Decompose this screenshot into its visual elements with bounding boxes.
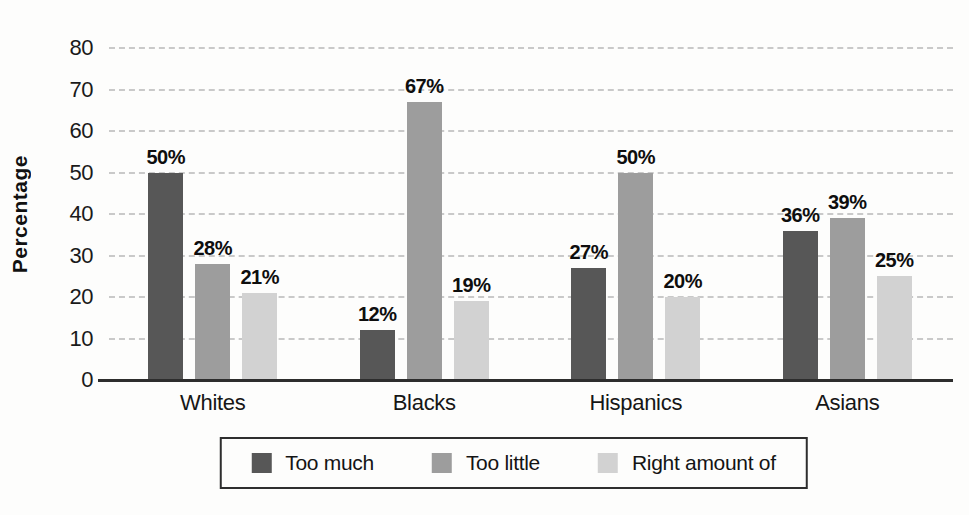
bar-value-label: 36%	[781, 204, 820, 227]
bar-value-label: 27%	[569, 241, 608, 264]
bar-value-label: 50%	[146, 146, 185, 169]
legend-label-too-much: Too much	[285, 451, 374, 475]
x-axis-label-hispanics: Hispanics	[530, 390, 742, 416]
y-axis-title: Percentage	[8, 155, 32, 273]
bar-too-little-asians: 39%	[830, 218, 865, 380]
y-axis-tick-30: 30	[43, 245, 93, 267]
bar-value-label: 21%	[240, 266, 279, 289]
y-axis-tick-40: 40	[43, 203, 93, 225]
bar-value-label: 19%	[452, 274, 491, 297]
bar-group-asians: 36%39%25%	[742, 48, 954, 380]
y-axis-title-wrap: Percentage	[2, 48, 38, 380]
legend-label-too-little: Too little	[466, 451, 540, 475]
bar-group-hispanics: 27%50%20%	[530, 48, 742, 380]
x-axis-labels: WhitesBlacksHispanicsAsians	[107, 390, 953, 416]
bar-value-label: 39%	[828, 191, 867, 214]
bar-group-blacks: 12%67%19%	[319, 48, 531, 380]
bar-value-label: 67%	[405, 75, 444, 98]
bar-groups: 50%28%21%12%67%19%27%50%20%36%39%25%	[107, 48, 953, 380]
y-axis-tick-0: 0	[43, 369, 93, 391]
bar-value-label: 50%	[616, 146, 655, 169]
bar-too-much-whites: 50%	[148, 173, 183, 381]
bar-value-label: 20%	[663, 270, 702, 293]
bar-too-little-whites: 28%	[195, 264, 230, 380]
y-axis-tick-70: 70	[43, 79, 93, 101]
bar-group-whites: 50%28%21%	[107, 48, 319, 380]
legend-swatch-too-much	[251, 453, 271, 473]
bar-too-much-hispanics: 27%	[571, 268, 606, 380]
legend-item-too-much: Too much	[251, 451, 374, 475]
bar-right-amount-of-whites: 21%	[242, 293, 277, 380]
y-axis-tick-20: 20	[43, 286, 93, 308]
legend: Too muchToo littleRight amount of	[219, 437, 807, 489]
bar-too-little-hispanics: 50%	[618, 173, 653, 381]
x-axis-label-blacks: Blacks	[319, 390, 531, 416]
legend-label-right-amount-of: Right amount of	[632, 451, 776, 475]
y-axis-tick-50: 50	[43, 162, 93, 184]
bar-right-amount-of-asians: 25%	[877, 276, 912, 380]
bar-value-label: 28%	[193, 237, 232, 260]
y-axis-tick-10: 10	[43, 328, 93, 350]
x-axis-label-asians: Asians	[742, 390, 954, 416]
y-axis-tick-80: 80	[43, 37, 93, 59]
legend-item-right-amount-of: Right amount of	[598, 451, 776, 475]
legend-swatch-too-little	[432, 453, 452, 473]
plot-area: 01020304050607080 50%28%21%12%67%19%27%5…	[107, 48, 953, 380]
y-axis-tick-60: 60	[43, 120, 93, 142]
bar-too-little-blacks: 67%	[407, 102, 442, 380]
bar-value-label: 25%	[875, 249, 914, 272]
x-axis-line	[98, 379, 953, 382]
bar-chart: Percentage 01020304050607080 50%28%21%12…	[0, 0, 969, 515]
bar-too-much-blacks: 12%	[360, 330, 395, 380]
bar-right-amount-of-blacks: 19%	[454, 301, 489, 380]
legend-swatch-right-amount-of	[598, 453, 618, 473]
legend-item-too-little: Too little	[432, 451, 540, 475]
x-axis-label-whites: Whites	[107, 390, 319, 416]
bar-too-much-asians: 36%	[783, 231, 818, 380]
bar-right-amount-of-hispanics: 20%	[665, 297, 700, 380]
bar-value-label: 12%	[358, 303, 397, 326]
